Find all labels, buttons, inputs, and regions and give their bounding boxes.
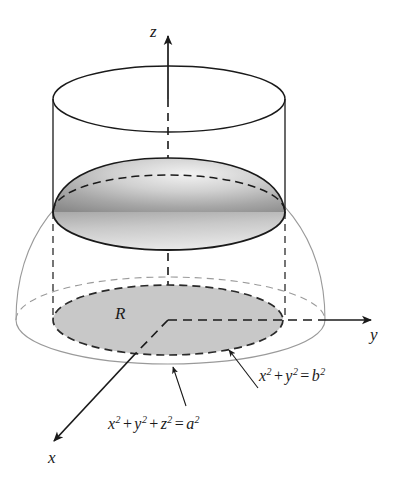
cylinder-eq-b: b bbox=[312, 367, 320, 384]
sphere-eq-a: a bbox=[186, 415, 194, 432]
sphere-eq-x: x bbox=[108, 415, 116, 432]
sphere-eq-y: y bbox=[134, 415, 142, 432]
cylinder-eq-plus-1: + bbox=[272, 367, 285, 384]
figure-canvas: z y x R x2+y2=b2 x2+y2+z2=a2 bbox=[0, 0, 403, 482]
sphere-eq-plus-2: + bbox=[147, 415, 160, 432]
cylinder-eq-y: y bbox=[285, 367, 293, 384]
sphere-eq-plus-1: + bbox=[121, 415, 134, 432]
solid-region-illustration bbox=[0, 0, 403, 482]
cylinder-equation-label: x2+y2=b2 bbox=[259, 368, 326, 384]
sphere-equation-label: x2+y2+z2=a2 bbox=[108, 416, 200, 432]
cap-underside-fill bbox=[53, 212, 285, 250]
sphere-eq-z-exp: 2 bbox=[167, 414, 172, 425]
sphere-equation-leader bbox=[173, 367, 186, 406]
sphere-eq-equals: = bbox=[173, 415, 186, 432]
z-axis-label: z bbox=[150, 23, 157, 40]
cylinder-eq-x: x bbox=[259, 367, 267, 384]
x-axis-label: x bbox=[48, 449, 56, 466]
sphere-eq-a-exp: 2 bbox=[195, 414, 200, 425]
cylinder-equation-leader bbox=[229, 350, 258, 388]
cylinder-top-ellipse bbox=[53, 66, 285, 132]
cylinder-eq-b-exp: 2 bbox=[320, 366, 325, 377]
region-label-R: R bbox=[115, 305, 126, 322]
spherical-cap bbox=[53, 158, 285, 250]
cylinder-eq-equals: = bbox=[298, 367, 311, 384]
y-axis-label: y bbox=[370, 326, 378, 343]
